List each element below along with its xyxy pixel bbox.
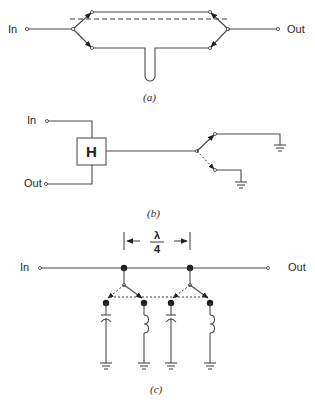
capacitor-icon: [101, 303, 111, 363]
panel-b-in-label: In: [27, 114, 36, 126]
ground-icon: [274, 145, 286, 151]
panel-b-long-short: [216, 134, 280, 145]
quarter-denominator: 4: [154, 243, 161, 255]
hybrid-label: H: [86, 143, 97, 160]
quarter-wave-dimension: λ 4: [124, 229, 190, 255]
phase-shifter-diagram: In Out (a) In H Out: [0, 0, 315, 405]
panel-b-caption: (b): [147, 207, 160, 220]
panel-b-short-short: [216, 170, 241, 182]
panel-c-in-label: In: [20, 261, 29, 273]
panel-a-right-switch-lower: [211, 29, 228, 47]
panel-a: In Out (a): [8, 11, 305, 105]
panel-c-out-terminal: [267, 267, 270, 270]
ground-icon: [165, 363, 177, 369]
ground-icon: [204, 363, 216, 369]
shunt-switch-2: [168, 265, 213, 306]
panel-b-output-wire: [47, 165, 92, 184]
panel-a-out-terminal: [276, 27, 279, 30]
panel-a-out-label: Out: [287, 23, 305, 35]
lambda-symbol: λ: [154, 229, 160, 241]
ground-icon: [235, 182, 247, 188]
inductor-icon: [144, 303, 149, 363]
panel-a-left-switch-upper: [73, 13, 91, 29]
shunt-switch-1: [103, 265, 147, 306]
panel-c-caption: (c): [150, 383, 163, 396]
panel-b: In H Out (b): [24, 114, 286, 220]
panel-b-switch-arm-lower: [197, 151, 214, 169]
panel-a-in-terminal: [25, 27, 28, 30]
ground-icon: [138, 363, 150, 369]
inductor-icon: [210, 303, 215, 363]
panel-a-upper-left-contact: [91, 11, 94, 14]
panel-c-out-label: Out: [288, 261, 306, 273]
panel-a-left-pivot: [71, 27, 74, 30]
panel-a-caption: (a): [143, 91, 156, 104]
panel-c: λ 4 In Out: [20, 229, 306, 396]
panel-b-input-wire: [48, 121, 92, 138]
panel-a-right-switch-upper: [211, 13, 228, 29]
panel-b-out-label: Out: [24, 177, 42, 189]
panel-a-left-switch-lower: [73, 29, 91, 47]
panel-b-switch-arm-upper: [197, 135, 214, 151]
panel-a-lower-path-with-stub: [93, 48, 210, 81]
panel-a-lower-left-contact: [91, 47, 94, 50]
ground-icon: [100, 363, 112, 369]
capacitor-icon: [166, 303, 176, 363]
panel-a-in-label: In: [8, 23, 17, 35]
